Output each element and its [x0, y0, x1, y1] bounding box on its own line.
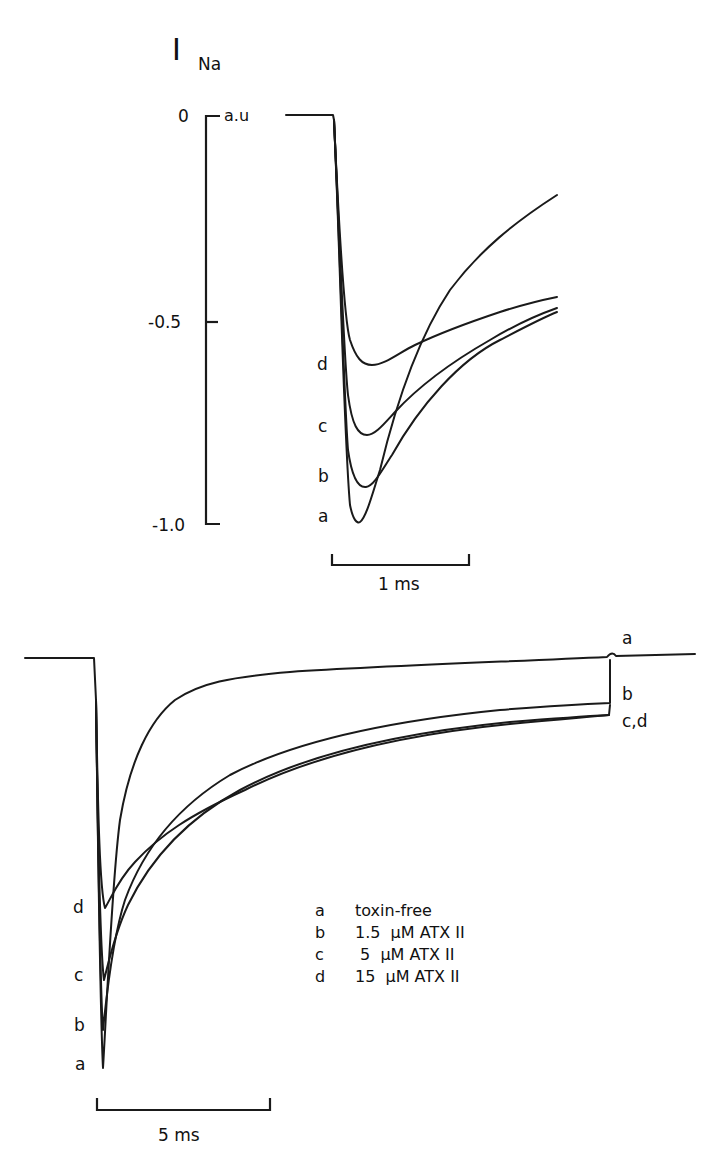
top-label-a: a — [318, 506, 328, 526]
bottom-end-label-a: a — [622, 628, 632, 648]
y-tick-0: 0 — [178, 106, 189, 126]
legend-key-a: a — [315, 901, 325, 920]
bottom-label-c: c — [74, 965, 83, 985]
y-axis-label: I — [172, 32, 181, 67]
legend-key-c: c — [315, 945, 324, 964]
bottom-scale-bar — [97, 1098, 270, 1110]
legend-text-d: 15 µM ATX II — [355, 967, 460, 986]
bottom-trace-b — [96, 660, 610, 1030]
bottom-scale-label: 5 ms — [158, 1125, 200, 1145]
y-unit: a.u — [224, 106, 249, 125]
bottom-label-b: b — [74, 1015, 85, 1035]
bottom-end-label-cd: c,d — [622, 711, 648, 731]
top-panel: I Na 0 a.u -0.5 -1.0 d c b a 1 ms — [148, 32, 557, 594]
top-label-c: c — [318, 416, 327, 436]
bottom-label-a: a — [75, 1054, 85, 1074]
top-label-d: d — [317, 354, 328, 374]
bottom-trace-d — [96, 700, 610, 908]
legend-key-b: b — [315, 923, 325, 942]
legend: a toxin-free b 1.5 µM ATX II c 5 µM ATX … — [315, 901, 465, 986]
bottom-panel: d c b a a b c,d a toxin-free b 1.5 µM AT… — [25, 628, 695, 1145]
bottom-trace-c — [96, 700, 609, 980]
figure: I Na 0 a.u -0.5 -1.0 d c b a 1 ms — [0, 0, 724, 1161]
top-trace-c — [334, 120, 557, 435]
top-label-b: b — [318, 466, 329, 486]
bottom-label-d: d — [73, 897, 84, 917]
bottom-end-label-b: b — [622, 684, 633, 704]
legend-text-c: 5 µM ATX II — [355, 945, 454, 964]
legend-text-b: 1.5 µM ATX II — [355, 923, 465, 942]
top-scale-label: 1 ms — [378, 574, 420, 594]
top-scale-bar — [332, 554, 469, 565]
top-trace-b — [334, 120, 557, 487]
legend-key-d: d — [315, 967, 325, 986]
legend-text-a: toxin-free — [355, 901, 432, 920]
bottom-baseline — [25, 658, 96, 700]
y-tick-half-label: -0.5 — [148, 312, 181, 332]
y-axis-label-subscript: Na — [198, 54, 221, 74]
top-baseline — [286, 115, 334, 120]
y-axis — [206, 116, 220, 524]
y-tick-one-label: -1.0 — [152, 515, 185, 535]
